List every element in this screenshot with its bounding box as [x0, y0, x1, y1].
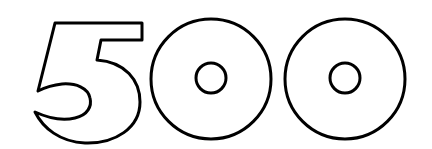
outlined-500-numerals: [0, 0, 432, 149]
digit-0-second-inner: [330, 63, 360, 93]
digit-5: [35, 23, 142, 143]
graphic-500: 500: [0, 0, 432, 149]
digit-0-first-inner: [196, 63, 226, 93]
